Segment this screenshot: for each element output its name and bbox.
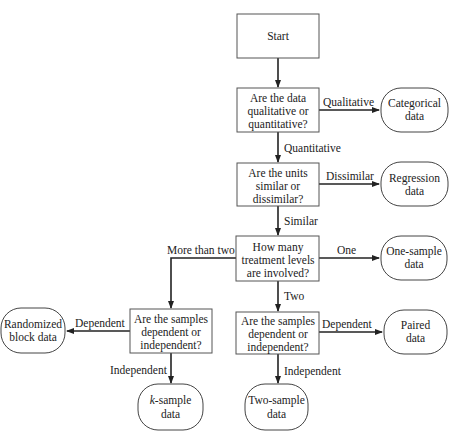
edge-label-two: Two xyxy=(284,290,305,302)
label-line: Randomized xyxy=(4,318,62,330)
label-line: Two-sample xyxy=(248,394,305,407)
label-line: Are the samples xyxy=(241,315,316,328)
label-line: are involved? xyxy=(247,267,309,279)
label-line: k-sample xyxy=(150,394,192,407)
edge-label-quantitative: Quantitative xyxy=(284,142,341,154)
terminal-two-sample: Two-sample data xyxy=(245,384,308,430)
label-line: data xyxy=(406,332,425,344)
terminal-regression: Regression data xyxy=(381,162,448,206)
edge-label-dependent-right: Dependent xyxy=(322,318,373,331)
label-line: qualitative or xyxy=(248,105,309,118)
label-line: dependent or xyxy=(248,328,308,341)
label-line: dependent or xyxy=(141,326,201,339)
label-line: One-sample xyxy=(386,245,442,258)
label-line: data xyxy=(267,408,286,420)
edge-label-more-than-two: More than two xyxy=(167,244,235,256)
label-line: Categorical xyxy=(388,97,441,110)
node-q-data-type: Are the data qualitative or quantitative… xyxy=(237,88,319,132)
label-line: treatment levels xyxy=(241,254,315,266)
arrow-more-than-two xyxy=(171,258,236,308)
label-line: independent? xyxy=(140,339,201,352)
edge-label-independent-right: Independent xyxy=(284,365,342,378)
node-q-samples-right: Are the samples dependent or independent… xyxy=(236,312,319,354)
label-line: data xyxy=(404,258,423,270)
label-line: Are the units xyxy=(248,167,308,179)
label-line: block data xyxy=(9,331,57,343)
edge-labels: Qualitative Quantitative Dissimilar Simi… xyxy=(75,96,374,378)
label-line: Regression xyxy=(389,172,440,185)
label-line: data xyxy=(405,185,424,197)
label-line: data xyxy=(161,408,180,420)
node-q-units: Are the units similar or dissimilar? xyxy=(237,163,319,206)
label-line: Paired xyxy=(401,319,431,331)
node-q-levels: How many treatment levels are involved? xyxy=(236,236,319,281)
edge-label-one: One xyxy=(337,244,356,256)
label-line: similar or xyxy=(256,180,301,192)
terminal-categorical: Categorical data xyxy=(381,88,448,132)
edge-label-dissimilar: Dissimilar xyxy=(326,170,374,182)
node-start-label: Start xyxy=(267,30,290,42)
terminal-randomized-block: Randomized block data xyxy=(1,308,65,353)
label-line: data xyxy=(405,110,424,122)
flowchart: Start Are the data qualitative or quanti… xyxy=(0,0,462,439)
edge-label-independent-left: Independent xyxy=(110,364,168,377)
label-line: Are the data xyxy=(250,92,306,104)
label-line: Are the samples xyxy=(134,313,209,326)
terminal-paired: Paired data xyxy=(384,310,447,354)
edge-label-dependent-left: Dependent xyxy=(75,317,126,330)
label-line: quantitative? xyxy=(248,118,307,131)
terminal-k-sample: k-sample data xyxy=(138,384,203,430)
node-q-samples-left: Are the samples dependent or independent… xyxy=(130,309,212,353)
node-start: Start xyxy=(237,14,319,58)
edge-label-qualitative: Qualitative xyxy=(323,96,374,108)
label-line: independent? xyxy=(247,341,308,354)
edge-label-similar: Similar xyxy=(284,215,318,227)
label-line: How many xyxy=(253,241,304,254)
label-line: dissimilar? xyxy=(253,193,303,205)
terminal-one-sample: One-sample data xyxy=(381,236,447,280)
